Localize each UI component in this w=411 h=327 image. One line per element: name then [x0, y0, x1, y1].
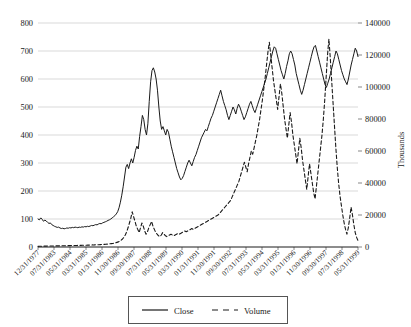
y-axis-right-tick-label: 60000 — [365, 147, 386, 156]
right-axis-title: Thousands — [397, 132, 406, 168]
y-axis-left-ticks: 0100200300400500600700800 — [20, 19, 33, 252]
y-axis-right-tick-label: 120000 — [365, 51, 390, 60]
y-axis-left-tick-label: 400 — [20, 131, 33, 140]
y-axis-right-tick-label: 80000 — [365, 115, 386, 124]
stock-close-volume-chart: 0100200300400500600700800 02000040000600… — [0, 0, 411, 327]
data-series-layer — [38, 39, 358, 246]
chart-canvas: 0100200300400500600700800 02000040000600… — [0, 0, 411, 327]
y-axis-left-tick-label: 100 — [20, 215, 33, 224]
y-axis-left-tick-label: 700 — [20, 47, 33, 56]
x-axis-ticks: 12/31/197707/31/198305/31/198403/31/1985… — [13, 247, 362, 278]
y-axis-right-tick-label: 100000 — [365, 83, 390, 92]
y-axis-left-tick-label: 200 — [20, 187, 33, 196]
series-line-close — [38, 45, 358, 228]
gridlines — [38, 23, 358, 219]
chart-legend: CloseVolume — [128, 296, 288, 326]
legend-label-volume: Volume — [244, 306, 271, 316]
y-axis-left-tick-label: 600 — [20, 75, 33, 84]
y-axis-right-ticks: 020000400006000080000100000120000140000 — [358, 19, 390, 252]
series-line-volume — [38, 39, 358, 246]
y-axis-right-tick-label: 140000 — [365, 19, 390, 28]
y-axis-left-tick-label: 800 — [20, 19, 33, 28]
y-axis-right-tick-label: 0 — [365, 243, 369, 252]
y-axis-left-tick-label: 300 — [20, 159, 33, 168]
legend-label-close: Close — [174, 306, 194, 316]
y-axis-left-tick-label: 500 — [20, 103, 33, 112]
y-axis-left-tick-label: 0 — [29, 243, 33, 252]
y-axis-right-tick-label: 20000 — [365, 211, 386, 220]
y-axis-right-tick-label: 40000 — [365, 179, 386, 188]
